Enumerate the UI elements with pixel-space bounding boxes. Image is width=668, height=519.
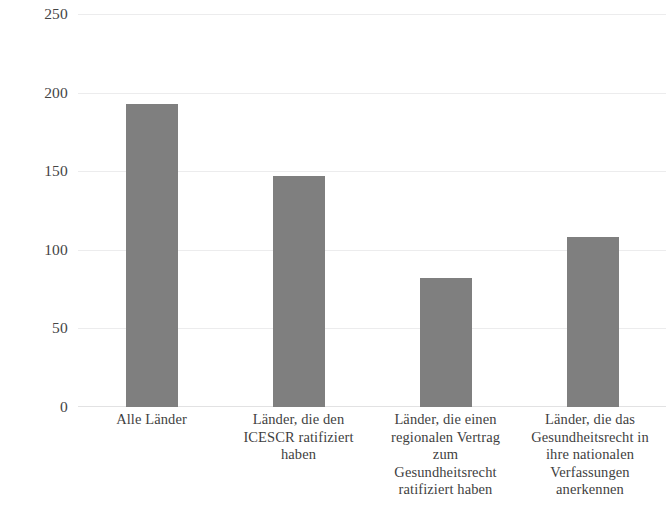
- bar-slot-3: [519, 14, 666, 407]
- bar-chart: 250 200 150 100 50 0 A: [0, 0, 668, 519]
- x-axis-label-3: Länder, die das Gesundheitsrecht in ihre…: [514, 411, 666, 499]
- x-axis-label-2: Länder, die einen regionalen Vertrag zum…: [370, 411, 521, 499]
- y-axis: 250 200 150 100 50 0: [0, 0, 78, 419]
- x-axis-labels: Alle Länder Länder, die den ICESCR ratif…: [78, 411, 666, 519]
- x-axis-label-2-line-1: regionalen Vertrag: [370, 429, 521, 447]
- bar-slot-2: [372, 14, 519, 407]
- x-axis-label-1-line-2: haben: [222, 446, 375, 464]
- plot-area: [78, 14, 666, 407]
- x-axis-label-1: Länder, die den ICESCR ratifiziert haben: [222, 411, 375, 464]
- x-axis-label-2-line-0: Länder, die einen: [370, 411, 521, 429]
- bar-regionaler-vertrag: [420, 278, 472, 407]
- x-axis-label-3-line-4: anerkennen: [514, 481, 666, 499]
- bar-series: [78, 14, 666, 407]
- bar-slot-1: [225, 14, 372, 407]
- x-axis-label-1-line-0: Länder, die den: [222, 411, 375, 429]
- bar-alle-laender: [126, 104, 178, 407]
- x-axis-label-3-line-1: Gesundheitsrecht in: [514, 429, 666, 447]
- y-axis-tick-50: 50: [52, 321, 68, 337]
- x-axis-label-2-line-4: ratifiziert haben: [370, 481, 521, 499]
- y-axis-tick-100: 100: [44, 242, 68, 258]
- x-axis-label-2-line-2: zum: [370, 446, 521, 464]
- x-axis-label-3-line-0: Länder, die das: [514, 411, 666, 429]
- y-axis-tick-150: 150: [44, 163, 68, 179]
- x-axis-label-3-line-2: ihre nationalen: [514, 446, 666, 464]
- y-axis-tick-250: 250: [44, 6, 68, 22]
- x-axis-label-2-line-3: Gesundheitsrecht: [370, 464, 521, 482]
- x-axis-label-1-line-1: ICESCR ratifiziert: [222, 429, 375, 447]
- x-axis-label-0: Alle Länder: [78, 411, 225, 429]
- bar-nationale-verfassungen: [567, 237, 619, 407]
- x-axis-label-0-line-0: Alle Länder: [78, 411, 225, 429]
- x-axis-label-3-line-3: Verfassungen: [514, 464, 666, 482]
- y-axis-tick-200: 200: [44, 85, 68, 101]
- y-axis-tick-0: 0: [60, 399, 68, 415]
- bar-slot-0: [78, 14, 225, 407]
- bar-icescr-ratifiziert: [273, 176, 325, 407]
